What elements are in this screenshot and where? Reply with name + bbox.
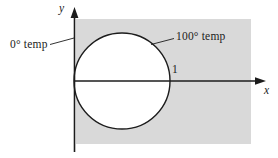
label-zero-temp: 0° temp — [10, 39, 48, 51]
label-x-axis: x — [264, 85, 269, 97]
y-axis-arrowhead — [71, 7, 79, 18]
leader-line-zero-temp — [50, 38, 74, 45]
figure-container: 0° temp 100° temp y x 1 — [0, 0, 278, 158]
label-tick-one: 1 — [172, 64, 178, 76]
figure-canvas — [0, 0, 278, 158]
label-hundred-temp: 100° temp — [176, 31, 226, 43]
label-y-axis: y — [59, 3, 64, 15]
